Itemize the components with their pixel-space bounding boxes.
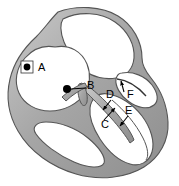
label-b-dot-marker <box>63 85 71 93</box>
label-b-text: B <box>87 79 94 91</box>
heart-diagram-figure: A B C D E F <box>0 0 179 186</box>
label-e-text: E <box>125 104 132 116</box>
label-a-dot-marker <box>24 64 31 71</box>
label-a-text: A <box>38 61 46 73</box>
label-f-text: F <box>127 88 134 100</box>
heart-cross-section-illustration: A B C D E F <box>0 0 179 186</box>
label-d-text: D <box>106 88 114 100</box>
label-c-text: C <box>101 118 109 130</box>
